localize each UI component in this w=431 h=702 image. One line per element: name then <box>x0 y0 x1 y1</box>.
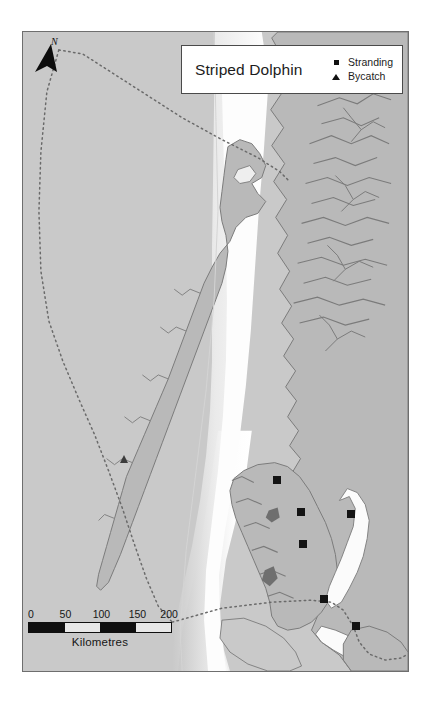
stranding-marker <box>273 476 281 484</box>
legend-entry-bycatch: Bycatch <box>330 71 393 82</box>
stranding-marker <box>297 508 305 516</box>
stranding-marker <box>320 595 328 603</box>
scale-segment <box>136 623 172 632</box>
map-figure: N Striped Dolphin Stranding Bycatch 0 50… <box>0 0 431 702</box>
bycatch-marker <box>120 455 128 463</box>
bycatch-triangle-icon <box>330 74 342 80</box>
scale-bar-blocks <box>28 622 172 633</box>
legend-title: Striped Dolphin <box>182 61 330 79</box>
map-frame <box>22 31 409 672</box>
scale-bar: 0 50 100 150 200 Kilometres <box>28 608 172 648</box>
scale-segment <box>29 623 65 632</box>
scale-segment <box>65 623 101 632</box>
scale-tick: 50 <box>60 608 72 620</box>
legend-entries: Stranding Bycatch <box>330 57 402 82</box>
stranding-marker <box>347 510 355 518</box>
stranding-square-icon <box>330 60 342 65</box>
scale-tick: 200 <box>160 608 178 620</box>
legend-entry-label: Bycatch <box>348 71 385 82</box>
scale-bar-units-label: Kilometres <box>28 636 172 648</box>
map-canvas <box>23 32 408 671</box>
legend-entry-stranding: Stranding <box>330 57 393 68</box>
scale-segment <box>100 623 136 632</box>
scale-tick: 150 <box>129 608 147 620</box>
north-arrow-icon <box>31 42 65 84</box>
legend-entry-label: Stranding <box>348 57 393 68</box>
stranding-marker <box>352 622 360 630</box>
north-arrow-label: N <box>51 36 58 47</box>
stranding-marker <box>299 540 307 548</box>
scale-tick: 0 <box>28 608 34 620</box>
scale-bar-ticks: 0 50 100 150 200 <box>28 608 172 621</box>
legend-box: Striped Dolphin Stranding Bycatch <box>181 45 403 94</box>
scale-tick: 100 <box>93 608 111 620</box>
